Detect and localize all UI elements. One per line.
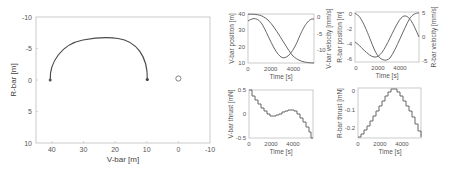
- main-xtick: 10: [143, 146, 151, 153]
- main-xtick: -10: [205, 146, 215, 153]
- figure: -10 -5 0 5 10 40 30 20 10 0 -10 V-bar [m…: [0, 0, 450, 173]
- rthr-ytick: 0: [352, 88, 356, 94]
- vpos-ytick: 40: [238, 11, 245, 17]
- main-x-label: V-bar [m]: [107, 155, 139, 164]
- main-plot-frame: [36, 17, 210, 143]
- time-xtick: 4000: [287, 66, 301, 72]
- vpv-x-label: Time [s]: [270, 73, 293, 81]
- rbar-thrust-plot: 0 -0.1 -0.2 0 2000 4000 Time [s] R-bar t…: [336, 88, 421, 156]
- main-xtick: 40: [48, 146, 56, 153]
- vthr-ytick: -0.5: [236, 135, 247, 141]
- rbar-thrust-curve: [358, 89, 421, 137]
- time-xtick: 4000: [393, 65, 407, 71]
- rvel-ytick: 0: [422, 34, 426, 40]
- time-xtick: 2000: [371, 65, 385, 71]
- time-xtick: 0: [247, 141, 251, 147]
- target-circle-marker: [176, 76, 181, 81]
- rbar-position-velocity-plot: 0 -2 -4 -6 5 0 -5 0 2000 4000 Time [s] R…: [336, 6, 438, 80]
- time-xtick: 4000: [395, 141, 409, 147]
- time-xtick: 2000: [264, 66, 278, 72]
- main-ytick: 10: [24, 140, 32, 147]
- time-xtick: 0: [246, 66, 250, 72]
- main-ytick: -5: [26, 45, 32, 52]
- time-xtick: 0: [354, 65, 358, 71]
- rthr-ytick: -0.2: [345, 125, 356, 131]
- main-y-label: R-bar [m]: [9, 63, 18, 96]
- rvel-ytick: -5: [422, 58, 428, 64]
- rpv-x-label: Time [s]: [376, 72, 399, 80]
- main-xtick: 0: [176, 146, 180, 153]
- rpos-y-label: R-bar position [m]: [336, 11, 344, 62]
- time-xtick: 2000: [373, 141, 387, 147]
- vthr-x-label: Time [s]: [270, 148, 293, 156]
- vvel-ytick: -5: [317, 31, 323, 37]
- rvel-ytick: 5: [422, 10, 426, 16]
- rbar-position-curve: [355, 13, 419, 60]
- vvel-ytick: 0: [317, 14, 321, 20]
- vthr-y-label: V-bar thrust [mN]: [227, 89, 235, 138]
- trajectory-curve: [50, 38, 147, 80]
- rpos-ytick: -4: [347, 41, 353, 47]
- start-marker: [49, 79, 52, 82]
- rthr-x-label: Time [s]: [379, 148, 402, 156]
- vpos-ytick: 20: [238, 44, 245, 50]
- main-trajectory-plot: -10 -5 0 5 10 40 30 20 10 0 -10 V-bar [m…: [9, 14, 215, 165]
- time-xtick: 4000: [286, 141, 300, 147]
- time-xtick: 0: [356, 141, 360, 147]
- rthr-ytick: -0.1: [345, 107, 356, 113]
- main-ytick: 0: [28, 77, 32, 84]
- main-xtick: 20: [111, 146, 119, 153]
- vbar-thrust-curve: [249, 90, 313, 138]
- rthr-y-label: R-bar thrust [mN]: [336, 88, 344, 138]
- vvel-y-label: V-bar velocity [mm/s]: [325, 8, 333, 69]
- rvel-y-label: R-bar velocity [mm/s]: [430, 6, 438, 67]
- rpos-ytick: -6: [347, 56, 353, 62]
- rpos-ytick: -2: [347, 26, 353, 32]
- main-ytick: 5: [28, 108, 32, 115]
- vthr-ytick: 0: [243, 111, 247, 117]
- rbar-velocity-curve: [355, 16, 419, 57]
- vpos-y-label: V-bar position [m]: [228, 13, 236, 64]
- vpos-ytick: 10: [238, 60, 245, 66]
- vthr-ytick: 0.5: [238, 87, 247, 93]
- main-y-ticks: -10 -5 0 5 10: [22, 14, 38, 147]
- vpos-ytick: 30: [238, 27, 245, 33]
- vbar-position-velocity-plot: 40 30 20 10 0 -5 -10 0 2000 4000 Time [s…: [228, 8, 333, 81]
- rpos-ytick: 0: [349, 11, 353, 17]
- main-ytick: -10: [22, 14, 32, 21]
- main-xtick: 30: [80, 146, 88, 153]
- vbar-thrust-plot: 0.5 0 -0.5 0 2000 4000 Time [s] V-bar th…: [227, 87, 313, 156]
- end-marker: [146, 78, 149, 81]
- time-xtick: 2000: [264, 141, 278, 147]
- vbar-position-curve: [248, 14, 314, 63]
